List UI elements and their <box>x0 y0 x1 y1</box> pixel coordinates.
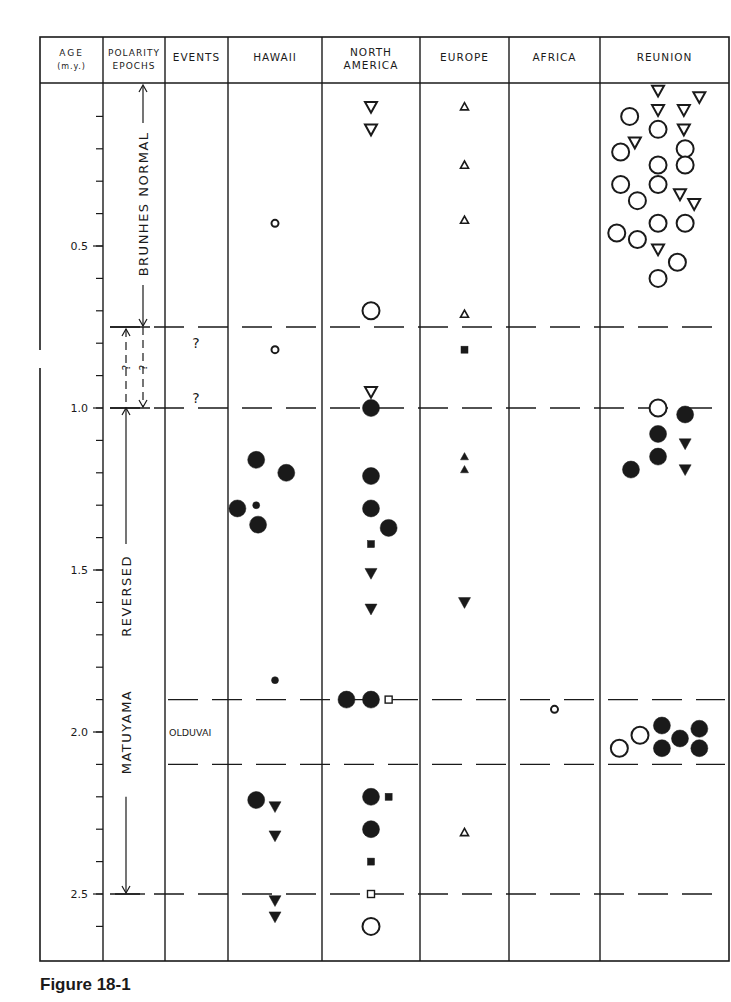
reunion-triangle-down-open <box>674 189 686 200</box>
reunion-circle-open <box>650 270 667 287</box>
north-america-circle-filled <box>363 788 380 805</box>
reunion-circle-open <box>629 192 646 209</box>
reunion-circle-open <box>621 108 638 125</box>
tick-label: 2.0 <box>71 726 89 739</box>
reunion-circle-open <box>631 727 648 744</box>
reunion-circle-filled <box>691 740 708 757</box>
reunion-triangle-down-filled <box>679 465 691 476</box>
north-america-circle-filled <box>363 400 380 417</box>
north-america-circle-filled <box>363 821 380 838</box>
hawaii-triangle-down-filled <box>269 802 281 813</box>
europe-triangle-up-open <box>461 216 469 223</box>
hawaii-circle-filled <box>250 516 267 533</box>
event-question-mark: ? <box>192 335 199 351</box>
hawaii-triangle-down-filled <box>269 896 281 907</box>
tick-label: 1.0 <box>71 402 89 415</box>
north-america-square-filled <box>368 858 375 865</box>
reunion-triangle-down-open <box>629 138 641 149</box>
column-header-africa: AFRICA <box>532 51 576 63</box>
north-america-square-filled <box>385 793 392 800</box>
column-header-polarity: POLARITY <box>108 48 160 58</box>
reunion-circle-open <box>650 176 667 193</box>
reunion-triangle-down-open <box>693 92 705 103</box>
hawaii-circle-filled <box>229 500 246 517</box>
africa-circle-open <box>551 706 558 713</box>
north-america-circle-open <box>363 918 380 935</box>
hawaii-circle-open <box>272 220 279 227</box>
reunion-circle-open <box>677 140 694 157</box>
reunion-triangle-down-open <box>652 244 664 255</box>
column-header-hawaii: HAWAII <box>253 51 297 63</box>
border-gap <box>38 350 42 368</box>
figure-caption: Figure 18-1 <box>40 975 131 995</box>
column-header-age: (m.y.) <box>57 62 86 71</box>
reunion-circle-open <box>669 254 686 271</box>
north-america-square-filled <box>368 541 375 548</box>
reunion-circle-filled <box>650 425 667 442</box>
reunion-circle-filled <box>671 730 688 747</box>
column-header-north_america: NORTH <box>350 46 392 58</box>
boundary-dashed-lines <box>110 327 725 894</box>
reunion-circle-open <box>650 121 667 138</box>
polarity-epochs: BRUNHES NORMAL??REVERSEDMATUYAMA <box>110 85 151 894</box>
hawaii-triangle-down-filled <box>269 912 281 923</box>
reunion-triangle-down-open <box>688 199 700 210</box>
column-header-north_america: AMERICA <box>344 59 399 71</box>
reunion-circle-open <box>611 740 628 757</box>
reunion-circle-filled <box>691 720 708 737</box>
polarity-chart: AGE(m.y.)POLARITYEPOCHSEVENTSHAWAIINORTH… <box>0 0 731 1002</box>
reunion-circle-open <box>677 157 694 174</box>
europe-triangle-up-open <box>461 103 469 110</box>
hawaii-circle-filled <box>248 451 265 468</box>
north-america-triangle-down-filled <box>365 568 377 579</box>
reunion-circle-filled <box>653 740 670 757</box>
reunion-triangle-down-open <box>652 105 664 116</box>
europe-triangle-down-filled <box>459 598 471 609</box>
reunion-circle-open <box>650 215 667 232</box>
tick-label: 1.5 <box>71 564 89 577</box>
question-mark: ? <box>120 364 133 370</box>
events-column: ??OLDUVAI <box>169 335 211 738</box>
epoch-label-matuyama: MATUYAMA <box>119 690 134 775</box>
column-header-europe: EUROPE <box>440 51 489 63</box>
column-header-reunion: REUNION <box>637 51 693 63</box>
question-mark: ? <box>137 364 150 370</box>
europe-square-filled <box>461 346 468 353</box>
europe-triangle-up-open <box>461 161 469 168</box>
reunion-triangle-down-open <box>652 86 664 97</box>
hawaii-circle-open <box>272 346 279 353</box>
tick-label: 0.5 <box>71 240 89 253</box>
column-headers: AGE(m.y.)POLARITYEPOCHSEVENTSHAWAIINORTH… <box>57 46 692 71</box>
event-label-olduvai: OLDUVAI <box>169 727 211 738</box>
reunion-circle-open <box>650 400 667 417</box>
reunion-triangle-down-filled <box>679 439 691 450</box>
north-america-circle-filled <box>380 519 397 536</box>
column-header-age: AGE <box>59 48 84 58</box>
reunion-triangle-down-open <box>678 105 690 116</box>
reunion-circle-open <box>650 157 667 174</box>
north-america-square-open <box>385 696 392 703</box>
north-america-circle-filled <box>363 468 380 485</box>
europe-triangle-up-open <box>461 310 469 317</box>
north-america-circle-filled <box>363 500 380 517</box>
reunion-circle-filled <box>650 448 667 465</box>
europe-triangle-up-filled <box>461 453 469 460</box>
north-america-triangle-down-open <box>365 387 377 398</box>
north-america-square-open <box>368 891 375 898</box>
reunion-circle-open <box>612 144 629 161</box>
age-axis: 0.51.01.52.02.5 <box>71 116 104 926</box>
north-america-circle-open <box>363 302 380 319</box>
hawaii-circle-filled <box>278 464 295 481</box>
hawaii-circle-filled <box>253 502 260 509</box>
epoch-label-brunhes: BRUNHES NORMAL <box>136 131 151 276</box>
reunion-circle-filled <box>653 717 670 734</box>
data-points <box>229 86 708 935</box>
north-america-circle-filled <box>363 691 380 708</box>
column-header-polarity: EPOCHS <box>113 61 156 71</box>
column-header-events: EVENTS <box>173 51 220 63</box>
reunion-circle-open <box>608 225 625 242</box>
reunion-circle-filled <box>677 406 694 423</box>
europe-triangle-up-filled <box>461 466 469 473</box>
reunion-circle-open <box>629 231 646 248</box>
europe-triangle-up-open <box>461 828 469 835</box>
